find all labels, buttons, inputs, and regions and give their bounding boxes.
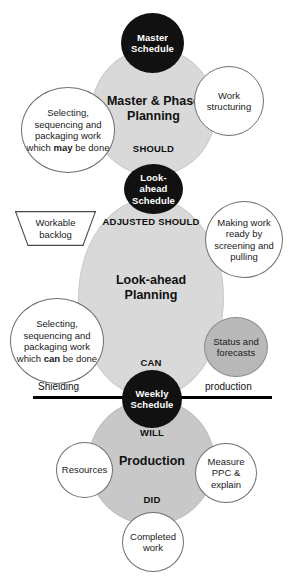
- bubble-status-and-forecasts[interactable]: Status and forecasts: [204, 317, 268, 377]
- node-look-ahead-schedule[interactable]: Look-ahead Schedule: [124, 164, 183, 214]
- stage-label-can: CAN: [92, 357, 210, 368]
- bubble-work-structuring-label: Work structuring: [195, 90, 263, 113]
- bubble-selecting-can-emphasis: can: [44, 353, 63, 364]
- bubble-selecting-may-be-done[interactable]: Selecting, sequencing and packaging work…: [21, 87, 115, 173]
- stage-label-adjusted-should: ADJUSTED SHOULD: [92, 216, 210, 227]
- stage-label-should: SHOULD: [104, 143, 203, 154]
- bubble-selecting-may-text: Selecting, sequencing and packaging work…: [22, 107, 114, 153]
- node-look-ahead-schedule-label: Look-ahead Schedule: [124, 172, 183, 207]
- bubble-resources-label: Resources: [58, 464, 111, 476]
- divider-label-production: production: [205, 381, 252, 392]
- bubble-selecting-can-tail: be done: [63, 353, 97, 364]
- stage-title-look-ahead-planning: Look-ahead Planning: [92, 273, 210, 302]
- bubble-measure-ppc[interactable]: Measure PPC & explain: [195, 443, 257, 503]
- last-planner-diagram: Master & Phase Planning SHOULD Master Sc…: [0, 0, 289, 582]
- funnel-workable-backlog-outline: [15, 211, 96, 246]
- node-master-schedule[interactable]: Master Schedule: [121, 13, 184, 73]
- bubble-status-and-forecasts-label: Status and forecasts: [205, 336, 267, 359]
- bubble-selecting-may-tail: be done: [75, 142, 109, 153]
- bubble-selecting-may-emphasis: may: [53, 142, 75, 153]
- stage-label-will: WILL: [94, 427, 210, 438]
- stage-title-master-phase-planning: Master & Phase Planning: [104, 94, 203, 123]
- bubble-making-work-ready-label: Making work ready by screening and pulli…: [206, 217, 282, 263]
- bubble-resources[interactable]: Resources: [56, 442, 113, 498]
- stage-label-did: DID: [94, 494, 210, 505]
- bubble-work-structuring[interactable]: Work structuring: [194, 66, 264, 136]
- node-master-schedule-label: Master Schedule: [121, 32, 184, 55]
- node-weekly-schedule-label: Weekly Schedule: [122, 388, 182, 411]
- node-weekly-schedule[interactable]: Weekly Schedule: [122, 370, 182, 428]
- bubble-selecting-can-text: Selecting, sequencing and packaging work…: [11, 318, 103, 364]
- bubble-making-work-ready[interactable]: Making work ready by screening and pulli…: [205, 201, 283, 278]
- bubble-selecting-can-be-done[interactable]: Selecting, sequencing and packaging work…: [10, 298, 104, 384]
- bubble-completed-work-label: Completed work: [123, 531, 183, 554]
- bubble-measure-ppc-label: Measure PPC & explain: [196, 456, 256, 491]
- bubble-completed-work[interactable]: Completed work: [122, 512, 184, 572]
